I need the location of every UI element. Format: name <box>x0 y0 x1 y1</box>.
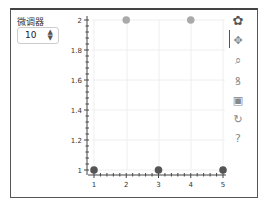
data-point[interactable] <box>187 16 195 24</box>
bokeh-logo-icon: ✿ <box>228 12 248 28</box>
x-tick-label: 4 <box>189 181 194 189</box>
data-point[interactable] <box>90 166 98 174</box>
grid <box>92 20 225 170</box>
x-tick-label: 5 <box>221 181 225 189</box>
y-tick-label: 1.6 <box>71 77 83 85</box>
y-tick-label: 1.2 <box>71 137 82 145</box>
pan-icon[interactable]: ✥ <box>228 32 248 48</box>
data-point[interactable] <box>155 166 163 174</box>
data-point[interactable] <box>219 166 227 174</box>
scatter-plot[interactable]: 11.21.41.61.82 12345 <box>0 0 265 209</box>
wheel-zoom-icon[interactable]: ꝸ <box>228 72 248 88</box>
x-tick-label: 3 <box>156 181 160 189</box>
x-tick-label: 2 <box>124 181 128 189</box>
y-tick-label: 2 <box>78 17 82 25</box>
data-point[interactable] <box>122 16 130 24</box>
x-tick-label: 1 <box>92 181 96 189</box>
help-icon[interactable]: ? <box>228 130 248 146</box>
box-zoom-icon[interactable]: ⌕ <box>228 52 248 68</box>
y-tick-label: 1 <box>78 167 82 175</box>
active-tool-indicator <box>229 30 230 48</box>
y-tick-label: 1.4 <box>71 107 83 115</box>
reset-icon[interactable]: ↻ <box>228 111 248 127</box>
save-icon[interactable]: ▣ <box>228 92 248 108</box>
y-tick-label: 1.8 <box>71 47 82 55</box>
